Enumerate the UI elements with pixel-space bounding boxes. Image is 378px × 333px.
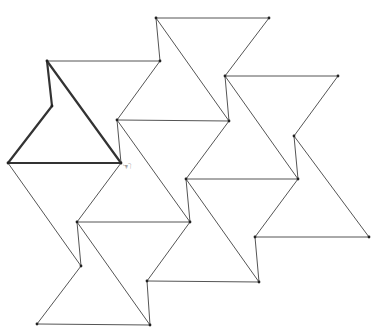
tile-edge	[147, 222, 190, 281]
hand-cursor-icon: ☜	[122, 161, 132, 172]
vertex-point[interactable]	[185, 178, 188, 181]
tile-edge	[8, 163, 81, 266]
tile-edge	[117, 120, 229, 121]
tile-edge	[255, 237, 259, 282]
vertex-point[interactable]	[76, 221, 79, 224]
tile-edges	[8, 18, 369, 325]
vertex-point[interactable]	[268, 17, 271, 20]
tile-edge	[37, 266, 81, 324]
vertex-point[interactable]	[258, 281, 261, 284]
vertex-point[interactable]	[149, 324, 152, 327]
tile-edge	[117, 61, 160, 120]
vertex-point[interactable]	[368, 236, 371, 239]
vertex-point[interactable]	[146, 280, 149, 283]
vertex-point[interactable]	[116, 119, 119, 122]
highlighted-tile-edge	[47, 61, 121, 163]
vertex-point[interactable]	[293, 135, 296, 138]
tile-edge	[294, 136, 298, 179]
highlighted-tile-edge	[8, 106, 52, 163]
vertex-point[interactable]	[228, 120, 231, 123]
tile-edge	[77, 222, 81, 266]
tile-edge	[156, 18, 160, 61]
tile-edge	[186, 179, 259, 282]
tile-edge	[77, 222, 150, 325]
tile-edge	[37, 324, 150, 325]
tile-edge	[294, 76, 338, 136]
tile-edge	[294, 136, 369, 237]
tile-edge	[225, 18, 269, 76]
tile-edge	[77, 163, 121, 222]
vertex-point[interactable]	[155, 17, 158, 20]
vertex-point[interactable]	[80, 265, 83, 268]
tile-edge	[225, 76, 229, 121]
vertex-point[interactable]	[46, 60, 49, 63]
vertex-point[interactable]	[7, 162, 10, 165]
tile-edge	[156, 18, 229, 121]
tile-edge	[186, 121, 229, 179]
tile-edge	[225, 76, 298, 179]
tile-edge	[147, 281, 259, 282]
tile-edge	[147, 281, 150, 325]
tile-edge	[186, 179, 190, 222]
vertex-point[interactable]	[297, 178, 300, 181]
vertex-point[interactable]	[254, 236, 257, 239]
vertex-point[interactable]	[159, 60, 162, 63]
vertex-point[interactable]	[36, 323, 39, 326]
tessellation-canvas[interactable]	[0, 0, 378, 333]
vertex-point[interactable]	[189, 221, 192, 224]
vertex-point[interactable]	[51, 105, 54, 108]
tile-edge	[255, 179, 298, 237]
vertex-point[interactable]	[337, 75, 340, 78]
vertex-point[interactable]	[224, 75, 227, 78]
